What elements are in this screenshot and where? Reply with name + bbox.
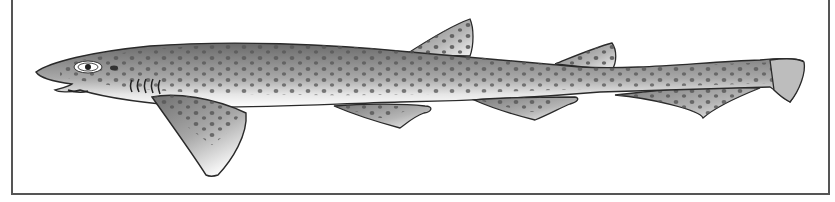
caudal-fin-tip: [770, 59, 804, 102]
eye: [74, 61, 102, 73]
spiracle: [110, 66, 118, 71]
shark-illustration: [0, 0, 835, 202]
